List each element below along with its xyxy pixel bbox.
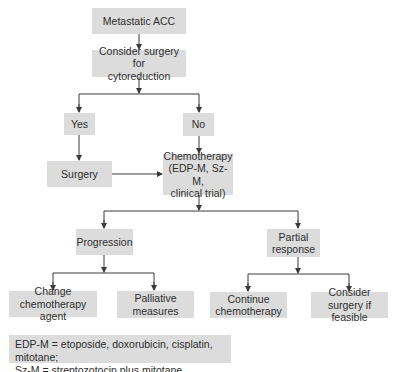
node-metastatic-acc: Metastatic ACC xyxy=(92,8,186,34)
node-continue-chemotherapy: Continue chemotherapy xyxy=(210,292,287,318)
node-consider-surgery-if-feasible: Consider surgery if feasible xyxy=(311,292,388,318)
node-partial-response: Partial response xyxy=(267,229,320,257)
node-chemotherapy: Chemotherapy (EDP-M, Sz-M, clinical tria… xyxy=(163,154,233,195)
node-no: No xyxy=(183,113,214,136)
node-progression: Progression xyxy=(76,229,133,255)
node-yes: Yes xyxy=(64,113,95,135)
node-change-chemotherapy-agent: Change chemotherapy agent xyxy=(9,291,97,317)
node-surgery: Surgery xyxy=(47,161,112,187)
node-palliative-measures: Palliative measures xyxy=(117,291,194,318)
node-consider-surgery-cytoreduction: Consider surgery for cytoreduction xyxy=(92,50,186,77)
abbreviation-legend: EDP-M = etoposide, doxorubicin, cisplati… xyxy=(9,335,231,363)
